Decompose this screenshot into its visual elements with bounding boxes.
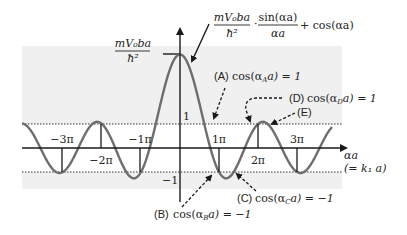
dispersion-formula: mV₀ba ħ² · sin(αa) αa + cos(αa) <box>214 11 354 40</box>
forbidden-region-lower <box>22 172 342 189</box>
x-tick-minus-3pi: −3π <box>50 133 73 146</box>
svg-text:(A): (A) <box>214 70 229 82</box>
forbidden-region-upper <box>22 46 342 124</box>
svg-text:·: · <box>254 18 258 31</box>
svg-text:(E): (E) <box>297 106 312 118</box>
svg-text:cos(αBa) = −1: cos(αBa) = −1 <box>173 208 252 222</box>
svg-text:cos(αDa) = 1: cos(αDa) = 1 <box>307 92 377 106</box>
svg-text:mV₀ba: mV₀ba <box>214 11 250 24</box>
svg-text:mV₀ba: mV₀ba <box>115 37 151 50</box>
x-axis-label-sub: (= k₁ a) <box>344 162 386 175</box>
x-tick-minus-1pi: −1π <box>128 133 151 146</box>
x-tick-minus-2pi: −2π <box>89 154 112 167</box>
svg-text:(C): (C) <box>237 192 252 204</box>
x-tick-3pi: 3π <box>290 133 304 146</box>
x-axis-label: αa <box>344 149 358 162</box>
svg-text:ħ²: ħ² <box>127 52 139 65</box>
x-tick-2pi: 2π <box>251 154 265 167</box>
svg-text:(B): (B) <box>154 208 169 220</box>
svg-text:cos(αAa) = 1: cos(αAa) = 1 <box>232 70 301 84</box>
svg-text:αa: αa <box>271 27 285 40</box>
svg-text:(D): (D) <box>289 92 304 104</box>
svg-text:ħ²: ħ² <box>226 27 238 40</box>
x-tick-1pi: 1π <box>212 133 226 146</box>
y-tick-minus-one: −1 <box>162 174 178 187</box>
svg-text:sin(αa): sin(αa) <box>259 11 298 24</box>
svg-text:cos(αCa) = −1: cos(αCa) = −1 <box>255 192 334 206</box>
kronig-penney-diagram: mV₀ba ħ² 1 −1 −3π −2π −1π 1π 2π 3π αa (=… <box>0 0 407 235</box>
svg-text:+ cos(αa): + cos(αa) <box>300 19 354 32</box>
y-tick-plus-one: 1 <box>183 110 190 123</box>
